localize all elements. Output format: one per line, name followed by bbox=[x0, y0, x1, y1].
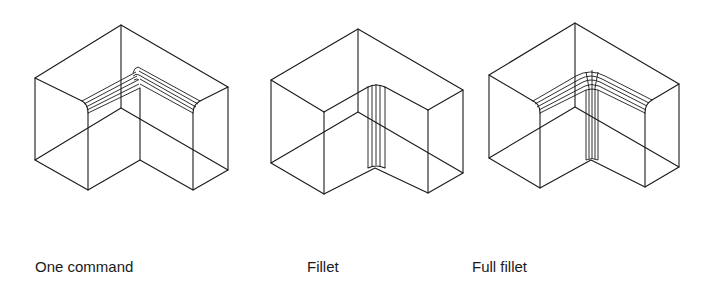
full-fillet-block bbox=[489, 23, 679, 188]
caption-full-fillet: Full fillet bbox=[472, 258, 527, 275]
caption-fillet: Fillet bbox=[307, 258, 339, 275]
caption-one-command: One command bbox=[35, 258, 133, 275]
